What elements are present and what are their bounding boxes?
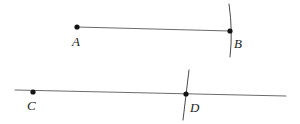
point-label-c: C — [27, 98, 36, 113]
point-dot-c — [30, 89, 35, 94]
segment-ab-line — [77, 27, 230, 31]
point-dot-d — [183, 91, 188, 96]
point-label-b: B — [234, 36, 242, 51]
point-dot-b — [227, 28, 232, 33]
geometry-figure: A B C D — [0, 0, 300, 124]
geometry-diagram-canvas: A B C D — [0, 0, 300, 124]
line-cd-line — [15, 90, 286, 96]
point-label-d: D — [189, 100, 200, 115]
point-label-a: A — [71, 34, 80, 49]
point-dot-a — [74, 24, 79, 29]
